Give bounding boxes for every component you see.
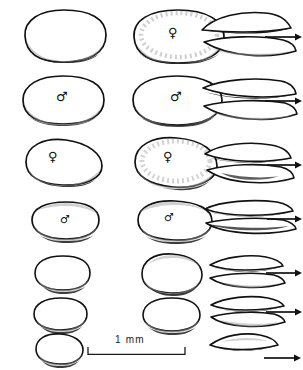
specimen-row: ♂ ♂	[0, 72, 303, 130]
specimen-dorsal-view	[33, 330, 87, 370]
specimen-lateral-group	[204, 253, 303, 297]
specimen-lateral-group	[201, 198, 303, 248]
specimen-lateral-group	[206, 330, 303, 368]
seed-lateral-icon	[201, 140, 303, 192]
figure-plate: ♀ ♂	[0, 0, 303, 370]
sex-symbol-male: ♂	[164, 212, 174, 223]
specimen-row	[0, 250, 303, 298]
seed-lateral-icon	[204, 253, 303, 297]
specimen-lateral-group	[199, 74, 303, 130]
specimen-lateral-group	[199, 9, 303, 67]
seed-lateral-icon	[199, 74, 303, 130]
seed-outline-icon	[33, 330, 87, 370]
specimen-ventral-view	[138, 249, 208, 299]
seed-outline-icon	[18, 6, 112, 66]
sex-symbol-female: ♀	[168, 26, 178, 39]
seed-outline-icon	[22, 134, 108, 190]
sex-symbol-female: ♀	[163, 150, 173, 163]
scale-bar	[86, 344, 188, 358]
sex-symbol-male: ♂	[60, 214, 70, 225]
specimen-row: ♀ ♀	[0, 134, 303, 194]
specimen-lateral-group	[201, 140, 303, 192]
specimen-dorsal-view: ♀	[22, 134, 108, 190]
specimen-dorsal-view	[18, 6, 112, 66]
sex-symbol-male: ♂	[56, 90, 68, 103]
direction-arrow-icon	[264, 354, 301, 361]
seed-lateral-icon	[199, 9, 303, 67]
specimen-dorsal-view: ♂	[18, 72, 110, 128]
specimen-row: ♀	[0, 6, 303, 68]
seed-outline-icon	[138, 249, 208, 299]
sex-symbol-female: ♀	[48, 150, 58, 163]
seed-outline-icon	[32, 252, 94, 296]
seed-lateral-icon	[206, 330, 303, 368]
sex-symbol-male: ♂	[170, 90, 182, 103]
specimen-row: ♂ ♂	[0, 196, 303, 248]
specimen-dorsal-view	[32, 252, 94, 296]
specimen-dorsal-view: ♂	[28, 198, 104, 244]
seed-lateral-icon	[201, 198, 303, 248]
